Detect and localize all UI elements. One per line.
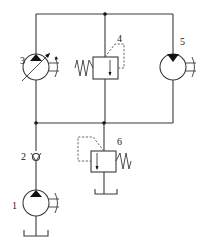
relief-valve-6: 6 xyxy=(78,123,131,194)
hydraulic-motor-5: 5 xyxy=(160,36,196,80)
hydraulic-circuit-diagram: 3 4 5 2 1 xyxy=(0,0,212,248)
variable-pump-3: 3 xyxy=(20,53,59,81)
label-2: 2 xyxy=(21,151,26,162)
junction-dot xyxy=(103,12,107,16)
label-6: 6 xyxy=(117,136,122,147)
check-valve-2: 2 xyxy=(21,123,41,190)
tank-icon xyxy=(95,189,117,194)
label-1: 1 xyxy=(12,200,17,211)
label-3: 3 xyxy=(20,55,25,66)
pump-1: 1 xyxy=(12,190,59,236)
relief-valve-4: 4 xyxy=(75,33,124,79)
label-4: 4 xyxy=(117,33,122,44)
label-5: 5 xyxy=(180,36,185,47)
main-lines xyxy=(34,12,173,125)
